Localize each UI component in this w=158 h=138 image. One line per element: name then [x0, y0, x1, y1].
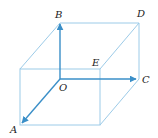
label-E: E — [91, 57, 100, 68]
label-B: B — [54, 9, 62, 20]
edge-bottom-right-to-C — [100, 79, 139, 125]
vectors — [22, 24, 136, 123]
cube-diagram: B D E C O A — [0, 0, 158, 138]
vector-OA — [22, 79, 60, 123]
label-C: C — [142, 74, 150, 85]
label-D: D — [136, 8, 145, 19]
label-O: O — [59, 82, 67, 93]
edge-E-to-D — [100, 23, 139, 69]
edge-front-top-left-to-B — [20, 23, 60, 69]
label-A: A — [9, 124, 17, 135]
cube-edges — [20, 23, 139, 125]
